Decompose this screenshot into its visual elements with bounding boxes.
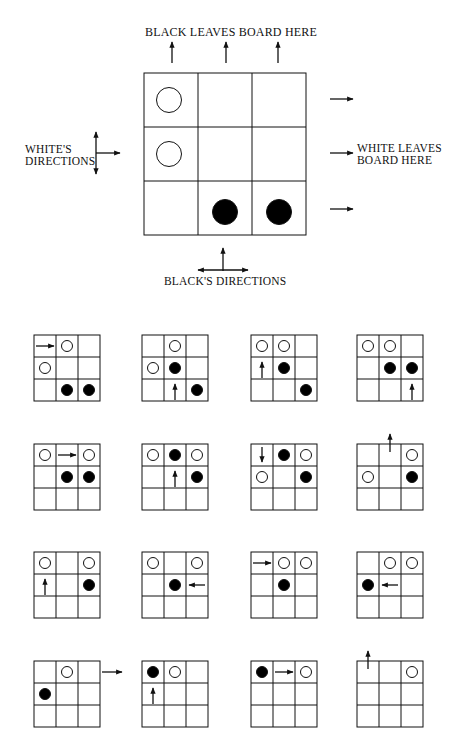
sequence-board-15	[251, 661, 317, 727]
white-piece	[363, 472, 374, 483]
white-piece	[84, 558, 95, 569]
sequence-board-3	[251, 335, 317, 401]
black-piece	[170, 450, 181, 461]
black-piece	[301, 472, 312, 483]
white-piece	[301, 667, 312, 678]
black-piece	[84, 472, 95, 483]
black-piece	[385, 363, 396, 374]
white-piece	[407, 667, 418, 678]
sequence-board-5	[34, 444, 100, 510]
black-piece	[213, 200, 238, 225]
sequence-board-11	[251, 552, 317, 618]
white-piece	[301, 558, 312, 569]
white-piece	[40, 558, 51, 569]
black-piece	[267, 200, 292, 225]
white-piece	[385, 341, 396, 352]
black-piece	[301, 385, 312, 396]
sequence-board-14	[142, 661, 208, 727]
black-piece	[363, 580, 374, 591]
black-piece	[84, 580, 95, 591]
white-piece	[192, 558, 203, 569]
white-piece	[257, 341, 268, 352]
white-piece	[148, 558, 159, 569]
sequence-board-12	[357, 552, 423, 618]
black-piece	[170, 363, 181, 374]
white-piece	[170, 667, 181, 678]
sequence-board-8	[357, 434, 423, 510]
main-arrows	[96, 42, 353, 271]
sequence-board-16	[357, 651, 423, 727]
black-piece	[279, 363, 290, 374]
move-sequence	[34, 335, 423, 727]
white-piece	[257, 472, 268, 483]
black-piece	[279, 450, 290, 461]
white-piece	[279, 558, 290, 569]
black-piece	[84, 385, 95, 396]
white-piece	[407, 450, 418, 461]
black-piece	[62, 385, 73, 396]
sequence-board-10	[142, 552, 208, 618]
white-piece	[157, 142, 182, 167]
white-piece	[40, 450, 51, 461]
black-piece	[279, 580, 290, 591]
white-piece	[157, 88, 182, 113]
black-piece	[192, 385, 203, 396]
white-piece	[62, 341, 73, 352]
black-piece	[148, 667, 159, 678]
sequence-board-6	[142, 444, 208, 510]
white-piece	[40, 363, 51, 374]
black-piece	[192, 472, 203, 483]
sequence-board-13	[34, 661, 122, 727]
black-piece	[62, 472, 73, 483]
white-piece	[363, 341, 374, 352]
black-piece	[170, 580, 181, 591]
black-piece	[407, 363, 418, 374]
white-piece	[192, 450, 203, 461]
sequence-board-1	[34, 335, 100, 401]
white-piece	[148, 363, 159, 374]
white-piece	[407, 558, 418, 569]
white-piece	[62, 667, 73, 678]
white-piece	[148, 450, 159, 461]
white-piece	[385, 558, 396, 569]
main-board	[144, 73, 306, 235]
sequence-board-7	[251, 444, 317, 510]
sequence-board-9	[34, 552, 100, 618]
white-piece	[170, 341, 181, 352]
sequence-board-4	[357, 335, 423, 401]
white-piece	[301, 450, 312, 461]
sequence-board-2	[142, 335, 208, 401]
white-piece	[279, 341, 290, 352]
black-piece	[257, 667, 268, 678]
black-piece	[40, 689, 51, 700]
diagram-canvas	[0, 0, 459, 744]
white-piece	[84, 450, 95, 461]
black-piece	[407, 472, 418, 483]
